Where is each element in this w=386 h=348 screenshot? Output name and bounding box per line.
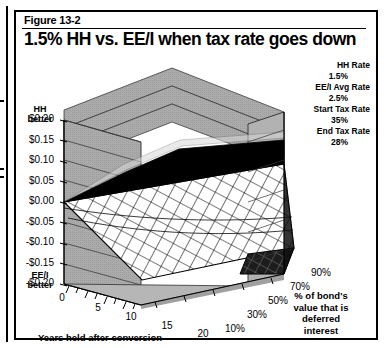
left-wall	[64, 120, 141, 305]
param-value-start-tax-rate: 35%	[266, 115, 370, 126]
eei-better-line2: better	[27, 280, 52, 290]
x-tick-label-0: 0	[52, 292, 72, 303]
right-wall-gridlines	[248, 130, 284, 262]
y-tick-label-1: $0.15	[12, 134, 54, 145]
figure-box: Figure 13-2 1.5% HH vs. EE/I when tax ra…	[14, 10, 378, 340]
x-tick-label-1: 5	[88, 302, 108, 313]
z-axis-ticks	[155, 278, 273, 308]
eei-better-line1: EE/I	[31, 270, 48, 280]
y-tick-label-5: -$0.05	[12, 216, 54, 227]
front-right-dark-mesh	[240, 164, 294, 274]
x-tick-label-4: 20	[192, 328, 214, 339]
figure-title: 1.5% HH vs. EE/I when tax rate goes down	[24, 29, 372, 50]
page-tick-middle	[0, 168, 4, 170]
y-tick-label-2: $0.10	[12, 154, 54, 165]
lower-surface-mesh	[64, 164, 294, 280]
x-axis-title: Years held after conversion	[38, 332, 162, 343]
z-tick-label-4: 90%	[311, 267, 331, 278]
y-tick-label-6: -$0.10	[12, 236, 54, 247]
z-tick-label-0: 10%	[225, 323, 245, 334]
hh-better-annotation: HH better	[18, 104, 62, 125]
z-axis-title: % of bond's value that is deferred inter…	[284, 290, 358, 336]
parameter-legend: HH Rate 1.5% EE/I Avg Rate 2.5% Start Ta…	[266, 60, 370, 148]
y-tick-label-7: -$0.15	[12, 257, 54, 268]
param-label-end-tax-rate: End Tax Rate	[266, 126, 370, 137]
left-wall-gridlines	[64, 120, 141, 305]
page-tick-lower	[0, 176, 4, 178]
z-tick-label-1: 30%	[247, 309, 267, 320]
param-label-hh-rate: HH Rate	[266, 60, 370, 71]
param-label-start-tax-rate: Start Tax Rate	[266, 104, 370, 115]
page-tick-upper	[0, 100, 4, 102]
axis-spines	[64, 112, 284, 305]
upper-surface-black	[64, 130, 284, 202]
figure-page: Figure 13-2 1.5% HH vs. EE/I when tax ra…	[0, 0, 386, 348]
param-value-end-tax-rate: 28%	[266, 137, 370, 148]
x-tick-label-2: 10	[120, 311, 142, 322]
back-left-wall	[64, 68, 284, 164]
y-tick-label-4: $0.00	[12, 195, 54, 206]
param-value-hh-rate: 1.5%	[266, 71, 370, 82]
y-tick-label-3: $0.05	[12, 175, 54, 186]
hh-better-line2: better	[27, 114, 52, 124]
param-label-eei-avg-rate: EE/I Avg Rate	[266, 82, 370, 93]
surface-edge-highlight	[64, 132, 284, 202]
x-tick-label-3: 15	[156, 320, 178, 331]
page-rule-left	[6, 6, 8, 342]
param-value-eei-avg-rate: 2.5%	[266, 93, 370, 104]
hh-better-line1: HH	[34, 104, 47, 114]
y-axis-ticks	[60, 120, 67, 286]
figure-caption: Figure 13-2	[24, 14, 81, 26]
eei-better-annotation: EE/I better	[18, 270, 62, 291]
